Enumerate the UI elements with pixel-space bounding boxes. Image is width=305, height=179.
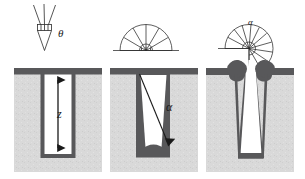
theta-angle-label: θ — [58, 28, 63, 39]
alpha-angle-label: α — [166, 101, 172, 113]
collimated-cone-source-icon — [34, 4, 56, 51]
depth-label-z: z — [57, 108, 62, 120]
bottom-liner-3 — [238, 153, 264, 159]
throat-void-3 — [247, 60, 255, 78]
panel-hemispherical — [110, 25, 198, 173]
hemispherical-source-icon — [113, 25, 179, 51]
trench-deposition-figure — [0, 0, 305, 179]
figure-canvas — [0, 0, 305, 179]
panel-shadowed — [206, 25, 294, 173]
alpha-angle-label-panel3: α — [248, 18, 253, 27]
